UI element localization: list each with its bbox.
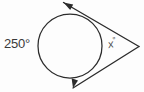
upper-tangent-arrowhead-icon [64,3,74,11]
circle-shape [38,14,102,78]
arc-measure-label: 250° [4,36,30,51]
geometry-figure: 250° x° [0,0,144,92]
lower-tangent-line [73,47,139,89]
